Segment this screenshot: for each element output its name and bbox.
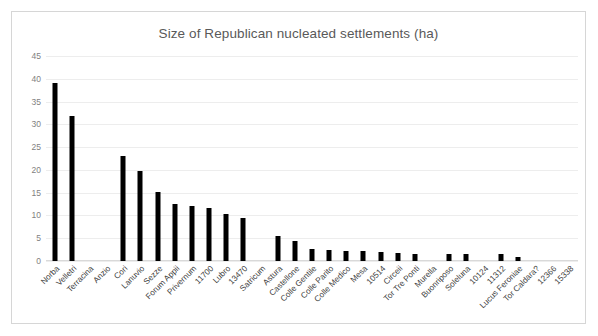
- bar-slot: [80, 56, 97, 261]
- y-tick-label: 35: [32, 97, 41, 107]
- bar[interactable]: [241, 218, 246, 261]
- bar[interactable]: [189, 206, 194, 261]
- x-tick-label: Anzio: [92, 264, 113, 285]
- bar-slot: [303, 56, 320, 261]
- bar-slot: [166, 56, 183, 261]
- bar[interactable]: [327, 250, 332, 261]
- bar[interactable]: [155, 192, 160, 261]
- bar-slot: [286, 56, 303, 261]
- chart-frame: Size of Republican nucleated settlements…: [11, 11, 586, 324]
- bar-slot: [458, 56, 475, 261]
- bar[interactable]: [447, 254, 452, 261]
- y-tick-label: 5: [36, 233, 41, 243]
- bar-slot: [475, 56, 492, 261]
- y-tick-label: 20: [32, 165, 41, 175]
- bar-slot: [441, 56, 458, 261]
- bar[interactable]: [309, 249, 314, 261]
- bar[interactable]: [361, 251, 366, 261]
- bar[interactable]: [498, 254, 503, 261]
- y-tick-label: 40: [32, 74, 41, 84]
- bar-slot: [46, 56, 63, 261]
- bar-slot: [183, 56, 200, 261]
- bar-slot: [338, 56, 355, 261]
- y-tick-label: 10: [32, 210, 41, 220]
- bar[interactable]: [69, 116, 74, 261]
- y-tick-label: 45: [32, 51, 41, 61]
- bar[interactable]: [52, 83, 57, 261]
- bar-slot: [321, 56, 338, 261]
- bar[interactable]: [292, 241, 297, 261]
- bar[interactable]: [464, 254, 469, 261]
- bar-slot: [200, 56, 217, 261]
- bar-slot: [132, 56, 149, 261]
- bar-slot: [252, 56, 269, 261]
- bar[interactable]: [378, 252, 383, 261]
- bar-slot: [149, 56, 166, 261]
- bar-slot: [561, 56, 578, 261]
- bar-slot: [389, 56, 406, 261]
- bar[interactable]: [395, 253, 400, 261]
- bar-slot: [372, 56, 389, 261]
- bar-slot: [492, 56, 509, 261]
- bar-slot: [355, 56, 372, 261]
- bar-slot: [218, 56, 235, 261]
- bar-slot: [544, 56, 561, 261]
- bar-series: [46, 56, 578, 261]
- bar-slot: [97, 56, 114, 261]
- bar[interactable]: [275, 236, 280, 262]
- x-tick-label: 10124: [468, 264, 490, 286]
- x-tick-label: 11700: [193, 264, 215, 286]
- bar-slot: [509, 56, 526, 261]
- bar[interactable]: [515, 257, 520, 261]
- bar-slot: [63, 56, 80, 261]
- bar[interactable]: [172, 204, 177, 261]
- bar-slot: [235, 56, 252, 261]
- x-tick-label: 10514: [365, 264, 387, 286]
- bar-slot: [269, 56, 286, 261]
- y-tick-label: 30: [32, 119, 41, 129]
- bar[interactable]: [138, 171, 143, 261]
- y-tick-label: 25: [32, 142, 41, 152]
- bar-slot: [424, 56, 441, 261]
- plot-area: 051015202530354045: [46, 56, 578, 261]
- bar-slot: [406, 56, 423, 261]
- bar-slot: [527, 56, 544, 261]
- y-tick-label: 15: [32, 188, 41, 198]
- bar[interactable]: [224, 214, 229, 261]
- x-axis-tick-labels: NorbaVelletriTerracinaAnzioCoriLanuvioSe…: [46, 262, 578, 336]
- bar[interactable]: [344, 251, 349, 261]
- bar[interactable]: [121, 156, 126, 261]
- y-tick-label: 0: [36, 256, 41, 266]
- bar[interactable]: [207, 208, 212, 261]
- bar[interactable]: [412, 254, 417, 261]
- bar-slot: [115, 56, 132, 261]
- chart-title: Size of Republican nucleated settlements…: [12, 26, 585, 41]
